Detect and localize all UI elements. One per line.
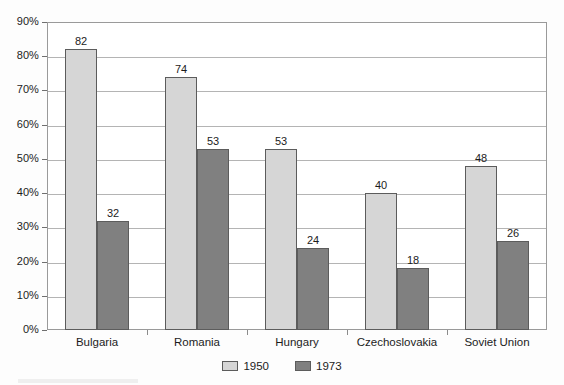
legend-label: 1973 [316,360,342,372]
bar-group: 4018 [347,22,447,330]
legend-swatch-icon [295,361,311,371]
bar-value-label: 74 [175,63,187,75]
legend-label: 1950 [243,360,269,372]
bar-value-label: 53 [275,135,287,147]
scan-artifact [18,379,138,383]
y-axis-tick-label: 20% [17,255,39,267]
x-axis-category-label: Hungary [247,336,347,348]
bar-value-label: 26 [507,227,519,239]
y-axis-tick-label: 0% [23,323,39,335]
bar-group: 4826 [447,22,547,330]
bar[interactable]: 48 [465,166,497,330]
x-axis-category-label: Czechoslovakia [347,336,447,348]
x-axis-category-label: Soviet Union [447,336,547,348]
bar-value-label: 82 [75,35,87,47]
bar[interactable]: 53 [265,149,297,330]
bar[interactable]: 18 [397,268,429,330]
y-axis-tick-label: 60% [17,118,39,130]
chart-page: 0%10%20%30%40%50%60%70%80%90% 8232745353… [0,0,564,385]
bar-value-label: 48 [475,152,487,164]
bar[interactable]: 74 [165,77,197,330]
y-axis-tick-label: 10% [17,289,39,301]
bar-value-label: 24 [307,234,319,246]
bars-layer: 82327453532440184826 [47,22,547,330]
bar[interactable]: 82 [65,49,97,330]
y-axis-tick-label: 90% [17,15,39,27]
y-axis-tick-label: 70% [17,83,39,95]
bar[interactable]: 40 [365,193,397,330]
x-axis-separator-tick [347,330,348,335]
x-axis-separator-tick [447,330,448,335]
bar[interactable]: 32 [97,221,129,331]
bar-group: 8232 [47,22,147,330]
y-axis-tick-label: 30% [17,220,39,232]
y-axis: 0%10%20%30%40%50%60%70%80%90% [0,22,47,330]
bar-value-label: 32 [107,207,119,219]
legend-item[interactable]: 1973 [295,360,342,372]
bar-group: 5324 [247,22,347,330]
bar-group: 7453 [147,22,247,330]
legend-item[interactable]: 1950 [222,360,269,372]
y-axis-tick-label: 40% [17,186,39,198]
bar-value-label: 53 [207,135,219,147]
y-axis-tick-label: 80% [17,49,39,61]
x-axis-category-label: Romania [147,336,247,348]
bar[interactable]: 24 [297,248,329,330]
x-axis-separator-tick [147,330,148,335]
bar-value-label: 40 [375,179,387,191]
x-axis-category-label: Bulgaria [47,336,147,348]
y-axis-tick-label: 50% [17,152,39,164]
legend-swatch-icon [222,361,238,371]
x-axis: BulgariaRomaniaHungaryCzechoslovakiaSovi… [47,330,547,354]
x-axis-separator-tick [247,330,248,335]
chart-legend: 19501973 [0,360,564,372]
bar[interactable]: 26 [497,241,529,330]
bar-value-label: 18 [407,254,419,266]
bar[interactable]: 53 [197,149,229,330]
